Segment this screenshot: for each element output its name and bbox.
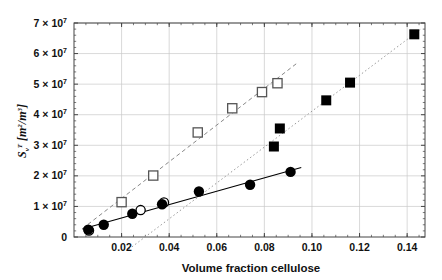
y-tick-label: 4 × 107 — [34, 108, 68, 120]
y-tick-label-text: 3 × 107 — [34, 139, 68, 151]
y-tick-label-text: 0 — [61, 231, 67, 243]
marker-filled-circle — [157, 199, 167, 209]
marker-filled-square — [321, 95, 331, 105]
y-tick-label: 5 × 107 — [34, 78, 68, 90]
x-axis-title: Volume fraction cellulose — [182, 262, 320, 274]
marker-filled-circle — [194, 186, 204, 196]
marker-filled-square — [269, 142, 279, 152]
marker-open-square — [149, 171, 158, 180]
y-tick-label-text: 6 × 107 — [34, 47, 68, 59]
y-tick-label: 6 × 107 — [34, 47, 68, 59]
y-tick-label: 0 — [61, 231, 67, 243]
y-tick-label: 7 × 107 — [34, 17, 68, 29]
marker-filled-circle — [83, 224, 93, 234]
x-tick-label: 0.12 — [349, 241, 370, 253]
y-tick-label: 1 × 107 — [34, 200, 68, 212]
x-tick-label: 0.04 — [159, 241, 180, 253]
marker-open-square — [117, 198, 126, 207]
x-tick-label: 0.02 — [111, 241, 132, 253]
x-tick-label: 0.06 — [207, 241, 228, 253]
x-tick-label: 0.10 — [302, 241, 323, 253]
x-tick-label: 0.08 — [254, 241, 275, 253]
y-tick-label-text: 5 × 107 — [34, 78, 68, 90]
marker-filled-square — [409, 29, 419, 39]
marker-filled-circle — [285, 167, 295, 177]
marker-filled-square — [345, 78, 355, 88]
chart-figure: 0.020.040.060.080.100.120.14 01 × 1072 ×… — [0, 0, 442, 280]
y-tick-label: 2 × 107 — [34, 169, 68, 181]
x-tick-label: 0.14 — [397, 241, 418, 253]
y-tick-label: 3 × 107 — [34, 139, 68, 151]
y-tick-label-text: 7 × 107 — [34, 17, 68, 29]
marker-filled-circle — [245, 180, 255, 190]
marker-open-square — [228, 104, 237, 113]
y-tick-label-text: 2 × 107 — [34, 169, 68, 181]
marker-filled-square — [275, 123, 285, 133]
marker-open-square — [273, 79, 282, 88]
y-tick-label-text: 4 × 107 — [34, 108, 68, 120]
marker-open-square — [257, 87, 266, 96]
marker-filled-circle — [99, 220, 109, 230]
marker-filled-circle — [127, 209, 137, 219]
scatter-plot-canvas: 0.020.040.060.080.100.120.14 01 × 1072 ×… — [0, 0, 442, 280]
marker-open-square — [193, 128, 202, 137]
y-tick-label-text: 1 × 107 — [34, 200, 68, 212]
